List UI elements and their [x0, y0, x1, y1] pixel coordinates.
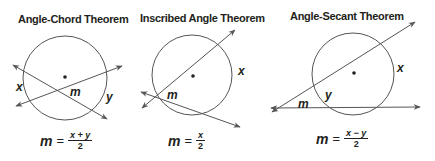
formula-inscribed-angle: m = x 2 [168, 130, 205, 151]
fraction: x 2 [196, 130, 205, 151]
formula-angle-chord: m = x + y 2 [40, 130, 92, 151]
formula-equals: = [184, 133, 192, 148]
numerator: x + y [68, 130, 92, 141]
fraction: x + y 2 [68, 130, 92, 151]
secant-line-lower [271, 107, 420, 108]
denominator: 2 [198, 141, 203, 151]
label-y: y [105, 90, 114, 104]
angle-secant-diagram: m y x [271, 22, 420, 115]
label-y: y [324, 88, 333, 102]
center-dot [191, 74, 195, 78]
label-x: x [15, 80, 24, 94]
label-m: m [70, 85, 81, 99]
formula-lhs: m [168, 133, 180, 149]
formula-equals: = [332, 131, 340, 146]
numerator: x − y [344, 128, 368, 139]
numerator: x [196, 130, 205, 141]
formula-lhs: m [316, 131, 328, 147]
label-m: m [298, 97, 309, 111]
denominator: 2 [354, 139, 359, 149]
formula-angle-secant: m = x − y 2 [316, 128, 368, 149]
secant-line-1 [142, 30, 235, 108]
label-m: m [167, 88, 178, 102]
center-dot [63, 75, 67, 79]
formula-equals: = [56, 133, 64, 148]
inscribed-angle-diagram: m x [141, 30, 246, 127]
label-x: x [396, 61, 405, 75]
chord-line-1 [13, 65, 107, 119]
center-dot [352, 71, 356, 75]
denominator: 2 [78, 141, 83, 151]
formula-lhs: m [40, 133, 52, 149]
label-x: x [237, 64, 246, 78]
fraction: x − y 2 [344, 128, 368, 149]
angle-chord-diagram: x m y [13, 36, 122, 120]
